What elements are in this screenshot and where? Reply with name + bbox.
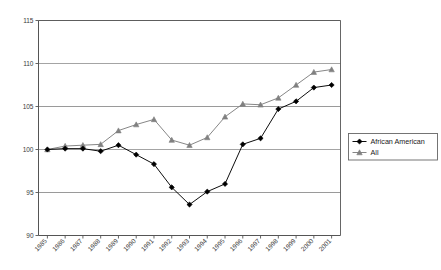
legend-label-1: All: [371, 148, 379, 157]
legend-label-0: African American: [371, 137, 425, 146]
y-tick-label-90: 90: [26, 232, 34, 239]
chart-legend: African AmericanAll: [349, 134, 438, 161]
y-tick-label-95: 95: [26, 189, 34, 196]
y-tick-label-105: 105: [23, 103, 34, 110]
y-tick-label-110: 110: [23, 60, 34, 67]
chart-container: 9095100105110115 19851986198719881989199…: [0, 0, 441, 270]
y-tick-label-100: 100: [23, 146, 34, 153]
line-chart: 9095100105110115 19851986198719881989199…: [0, 0, 441, 270]
y-tick-label-115: 115: [23, 17, 34, 24]
